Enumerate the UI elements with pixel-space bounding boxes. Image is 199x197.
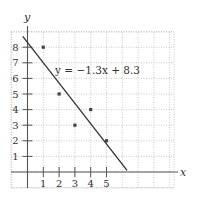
data-point [42,46,45,49]
axes [11,26,178,188]
y-tick-label: 5 [12,89,18,100]
y-tick-label: 2 [12,135,18,146]
data-point [89,108,92,111]
data-point [105,139,108,142]
data-point [58,92,61,95]
y-tick-label: 6 [12,73,18,84]
y-tick-label: 1 [12,151,18,162]
x-tick-label: 1 [40,178,46,189]
y-tick-label: 3 [12,120,18,131]
data-point [73,124,76,127]
x-tick-label: 5 [103,178,109,189]
x-tick-label: 3 [72,178,78,189]
scatter-chart: 1234512345678 x y y = −1.3x + 8.3 [0,0,199,197]
x-axis-label: x [180,166,187,179]
grid-border [11,32,174,188]
equation-label: y = −1.3x + 8.3 [54,64,140,76]
grid [11,32,174,188]
y-axis-label: y [23,11,31,24]
y-tick-label: 7 [12,57,18,68]
x-tick-label: 4 [88,178,94,189]
y-tick-label: 8 [12,42,18,53]
x-tick-label: 2 [56,178,62,189]
y-tick-label: 4 [12,104,18,115]
